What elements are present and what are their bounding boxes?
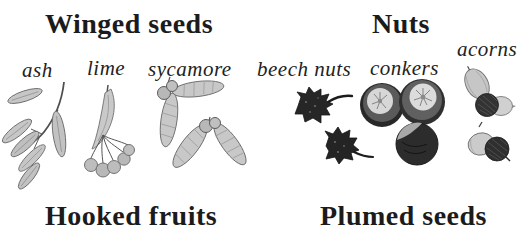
hooked-fruits-title: Hooked fruits <box>45 202 217 230</box>
lime-illustration <box>82 83 140 183</box>
conkers-illustration <box>356 78 451 170</box>
acorns-label: acorns <box>457 39 517 60</box>
nuts-title: Nuts <box>372 10 430 38</box>
winged-seeds-title: Winged seeds <box>45 10 213 38</box>
sycamore-illustration <box>145 76 250 175</box>
ash-illustration <box>0 80 95 192</box>
conkers-label: conkers <box>370 58 439 79</box>
beech-nuts-label: beech nuts <box>257 59 351 80</box>
lime-label: lime <box>87 58 125 79</box>
book-illustration-page: Winged seeds Nuts Hooked fruits Plumed s… <box>0 0 520 231</box>
acorns-illustration <box>453 60 520 168</box>
ash-label: ash <box>22 60 53 81</box>
plumed-seeds-title: Plumed seeds <box>320 202 487 230</box>
